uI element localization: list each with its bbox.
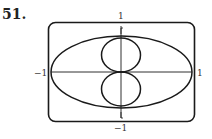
polar-graph: 1 −1 −1 1 [0,0,212,139]
y-max-label: 1 [118,11,124,21]
x-max-label: 1 [197,68,203,78]
y-axis-top-tick [121,28,123,34]
y-min-label: −1 [114,123,127,133]
x-min-label: −1 [34,68,47,78]
y-axis-bottom-tick [121,112,123,118]
